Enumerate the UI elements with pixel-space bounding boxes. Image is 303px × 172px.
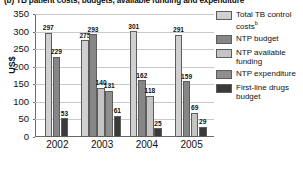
- y-tick-label: 50: [0, 115, 29, 125]
- chart-title: (b) TB patient costs, budgets, available…: [4, 0, 300, 8]
- x-axis-labels: 2002200320042005: [35, 139, 214, 155]
- y-tick-label: 250: [0, 44, 29, 54]
- bar: 131: [105, 91, 113, 137]
- bar-group: 27529314013161: [80, 14, 125, 137]
- bar-value-label: 301: [128, 23, 139, 30]
- bar-value-label: 69: [191, 104, 198, 111]
- legend: Total TB control costsbNTP budgetNTP ava…: [216, 10, 303, 104]
- bar: 275: [81, 40, 89, 137]
- x-tick-label: 2002: [46, 139, 68, 150]
- bar: 140: [97, 88, 105, 137]
- bar-value-label: 297: [43, 24, 54, 31]
- legend-swatch: [216, 35, 232, 44]
- bar: 69: [191, 113, 199, 137]
- legend-label: NTP budget: [236, 34, 279, 43]
- x-tick-label: 2005: [181, 139, 203, 150]
- bar-value-label: 53: [61, 110, 68, 117]
- bar: 53: [61, 118, 69, 137]
- bar: 25: [154, 128, 162, 137]
- bar: 229: [53, 57, 61, 137]
- legend-label: Total TB control costsb: [236, 10, 303, 31]
- legend-label: First-line drugs budget: [236, 83, 303, 101]
- legend-swatch: [216, 11, 232, 20]
- bar-value-label: 61: [114, 107, 121, 114]
- bar-value-label: 229: [51, 48, 62, 55]
- y-tick-mark: [33, 137, 35, 138]
- y-axis-ticks: 050100150200250300350: [0, 14, 31, 137]
- bar-value-label: 25: [154, 120, 161, 127]
- bar: 61: [114, 116, 122, 137]
- x-tick-label: 2003: [91, 139, 113, 150]
- y-tick-label: 150: [0, 80, 29, 90]
- y-tick-label: 300: [0, 27, 29, 37]
- legend-label: NTP expenditure: [236, 69, 296, 78]
- bar-group: 29722953: [35, 14, 80, 137]
- legend-item[interactable]: Total TB control costsb: [216, 10, 303, 31]
- y-tick-label: 100: [0, 97, 29, 107]
- plot-area: 2972295327529314013161301162118252911596…: [35, 14, 214, 137]
- bar-value-label: 159: [181, 73, 192, 80]
- bar: 301: [130, 31, 138, 137]
- y-tick-label: 200: [0, 62, 29, 72]
- bar: 29: [199, 127, 207, 137]
- bar-value-label: 29: [199, 118, 206, 125]
- bar-value-label: 162: [136, 72, 147, 79]
- legend-item[interactable]: NTP budget: [216, 34, 303, 44]
- legend-label: NTP available funding: [236, 48, 303, 66]
- bar: 118: [146, 96, 154, 137]
- legend-item[interactable]: NTP expenditure: [216, 69, 303, 79]
- x-tick-label: 2004: [136, 139, 158, 150]
- bar-value-label: 118: [145, 87, 156, 94]
- bar-value-label: 131: [104, 82, 115, 89]
- bar: 159: [183, 81, 191, 137]
- legend-swatch: [216, 49, 232, 58]
- legend-item[interactable]: NTP available funding: [216, 48, 303, 66]
- bar-value-label: 293: [88, 26, 99, 33]
- legend-swatch: [216, 70, 232, 79]
- bar-value-label: 291: [173, 26, 184, 33]
- bar: 291: [175, 35, 183, 137]
- bar-group: 30116211825: [125, 14, 170, 137]
- bar-group: 2911596929: [169, 14, 214, 137]
- chart-container: (b) TB patient costs, budgets, available…: [0, 0, 303, 172]
- legend-item[interactable]: First-line drugs budget: [216, 83, 303, 101]
- legend-swatch: [216, 84, 232, 93]
- y-tick-label: 0: [0, 132, 29, 142]
- y-tick-label: 350: [0, 9, 29, 19]
